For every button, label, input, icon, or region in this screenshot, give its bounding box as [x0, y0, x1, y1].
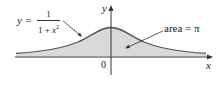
x-axis-label: x	[206, 60, 211, 71]
equation-numerator: 1	[37, 10, 60, 19]
fraction-bar	[37, 20, 60, 21]
denominator-prefix: 1 +	[38, 25, 52, 35]
equation-lhs: y =	[17, 15, 32, 26]
denominator-exp: 2	[56, 24, 59, 30]
curve-diagram	[0, 0, 219, 88]
origin-label: 0	[101, 60, 106, 70]
equation-fraction: 1 1 + x2	[37, 10, 60, 35]
y-axis-label: y	[102, 3, 107, 14]
equation-denominator: 1 + x2	[37, 22, 60, 35]
area-label: area = π	[164, 23, 200, 34]
y-axis-arrow-icon	[109, 5, 114, 11]
equation-pointer	[63, 21, 80, 35]
